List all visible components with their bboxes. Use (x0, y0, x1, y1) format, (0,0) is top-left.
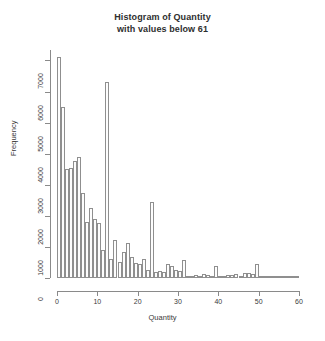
y-axis-tick (45, 60, 50, 61)
bars-container (57, 48, 299, 278)
x-axis-tick (218, 291, 219, 296)
x-axis-tick (97, 291, 98, 296)
x-axis-tick (178, 291, 179, 296)
page-title: Histogram of Quantity with values below … (0, 12, 325, 35)
y-axis-tick (45, 216, 50, 217)
x-axis-tick-label: 50 (249, 298, 269, 305)
y-axis-tick (45, 154, 50, 155)
x-axis-tick-label: 60 (289, 298, 309, 305)
y-axis-tick-label: 7000 (37, 60, 44, 102)
histogram-bar (150, 202, 154, 278)
y-axis-tick (45, 278, 50, 279)
histogram-bar (105, 82, 109, 278)
x-axis-label: Quantity (0, 313, 325, 322)
x-axis-tick (57, 291, 58, 296)
y-axis-tick (45, 92, 50, 93)
y-axis-tick (45, 123, 50, 124)
y-axis-label: Frequency (9, 66, 18, 156)
x-axis-tick (138, 291, 139, 296)
x-axis-tick-label: 40 (208, 298, 228, 305)
chart-title-line2: with values below 61 (0, 24, 325, 36)
x-axis-tick (299, 291, 300, 296)
y-axis-tick (45, 185, 50, 186)
x-axis-tick-label: 0 (47, 298, 67, 305)
x-axis-tick (259, 291, 260, 296)
x-axis-tick-label: 30 (168, 298, 188, 305)
x-axis-tick-label: 10 (87, 298, 107, 305)
histogram-plot: Histogram of Quantity with values below … (0, 0, 325, 341)
y-axis-tick (45, 247, 50, 248)
histogram-bar (295, 276, 299, 278)
chart-title-line1: Histogram of Quantity (114, 12, 211, 22)
x-axis-tick-label: 20 (128, 298, 148, 305)
y-axis-line (50, 50, 51, 278)
